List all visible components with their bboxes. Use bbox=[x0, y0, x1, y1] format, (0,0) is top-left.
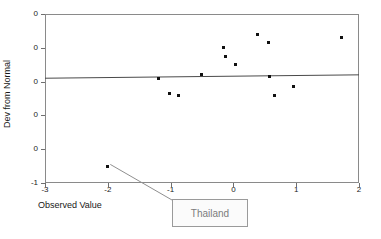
x-tick-label: 1 bbox=[294, 186, 298, 194]
y-axis-title: Dev from Normal bbox=[2, 60, 12, 128]
x-tick-label: 0 bbox=[231, 186, 235, 194]
y-tick-label: 0 bbox=[34, 44, 38, 52]
y-tick-label: 0 bbox=[34, 10, 38, 18]
y-tick-mark bbox=[41, 115, 45, 116]
x-tick-label: -1 bbox=[167, 186, 174, 194]
y-tick-label: 0 bbox=[34, 145, 38, 153]
plot-area-frame bbox=[45, 14, 359, 183]
y-tick-mark bbox=[41, 149, 45, 150]
x-tick-label: -2 bbox=[104, 186, 111, 194]
y-tick-mark bbox=[41, 48, 45, 49]
chart-canvas: 00000-1 -3-2-1012 Dev from Normal Observ… bbox=[0, 0, 381, 239]
x-axis-title: Observed Value bbox=[38, 200, 102, 210]
y-tick-mark bbox=[41, 82, 45, 83]
callout-box[interactable]: Thailand bbox=[172, 199, 248, 227]
y-tick-label: 0 bbox=[34, 111, 38, 119]
x-tick-label: -3 bbox=[41, 186, 48, 194]
y-tick-label: 0 bbox=[34, 78, 38, 86]
y-tick-mark bbox=[41, 14, 45, 15]
y-tick-label: -1 bbox=[31, 179, 38, 187]
callout-label: Thailand bbox=[173, 200, 247, 226]
x-tick-label: 2 bbox=[357, 186, 361, 194]
